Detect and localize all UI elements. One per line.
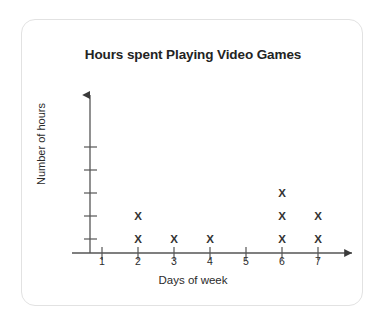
- x-tick-label-7: 7: [308, 255, 328, 267]
- data-point-day7-2: X: [310, 208, 326, 224]
- x-tick-label-4: 4: [200, 255, 220, 267]
- data-point-day4-1: X: [202, 231, 218, 247]
- data-point-day2-2: X: [130, 208, 146, 224]
- x-tick-label-2: 2: [128, 255, 148, 267]
- x-tick-label-1: 1: [92, 255, 112, 267]
- data-point-day6-1: X: [274, 231, 290, 247]
- x-axis-label: Days of week: [22, 274, 364, 286]
- data-point-day7-1: X: [310, 231, 326, 247]
- x-tick-label-3: 3: [164, 255, 184, 267]
- y-axis-label: Number of hours: [35, 89, 47, 199]
- data-point-day2-1: X: [130, 231, 146, 247]
- data-point-day6-2: X: [274, 208, 290, 224]
- x-tick-label-6: 6: [272, 255, 292, 267]
- chart-card: Hours spent Playing Video Games: [21, 19, 363, 306]
- x-tick-label-5: 5: [236, 255, 256, 267]
- data-point-day6-3: X: [274, 185, 290, 201]
- data-point-day3-1: X: [166, 231, 182, 247]
